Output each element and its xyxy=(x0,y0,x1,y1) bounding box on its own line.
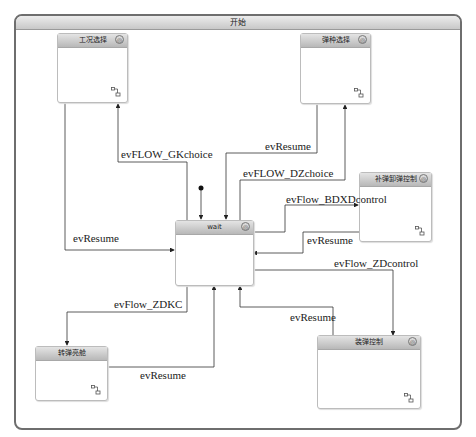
state-title: 工况选择 xyxy=(79,36,107,44)
submachine-icon xyxy=(354,88,364,98)
transition-label-zd-resume[interactable]: evResume xyxy=(290,311,336,323)
state-bdxd-control[interactable]: 补弹卸弹控制◎ xyxy=(359,172,432,242)
state-title: 弹种选择 xyxy=(322,36,350,44)
transition-label-zdkc[interactable]: evFlow_ZDKC xyxy=(114,298,182,310)
state-title: wait xyxy=(207,223,222,231)
transition-label-zdkc-resume[interactable]: evResume xyxy=(140,369,186,381)
transition-label-dz-choice[interactable]: evFLOW_DZchoice xyxy=(243,167,333,179)
state-zd-control[interactable]: 装弹控制◎ xyxy=(317,335,421,409)
state-title: 装弹控制 xyxy=(355,338,383,346)
gear-icon: ◎ xyxy=(408,337,417,346)
transition-label-zd-control[interactable]: evFlow_ZDcontrol xyxy=(334,257,418,269)
initial-state-dot xyxy=(199,186,204,191)
gear-icon: ◎ xyxy=(241,222,250,231)
gear-icon: ◎ xyxy=(115,35,124,44)
transition-label-gk-resume[interactable]: evResume xyxy=(73,232,119,244)
submachine-icon xyxy=(404,393,414,403)
transition-label-dz-resume[interactable]: evResume xyxy=(265,140,311,152)
submachine-icon xyxy=(111,87,121,97)
gear-icon: ◎ xyxy=(419,174,428,183)
state-title: 转弹亮舱 xyxy=(58,349,86,357)
transition-label-gk-choice[interactable]: evFLOW_GKchoice xyxy=(121,148,213,160)
state-zdkc[interactable]: 转弹亮舱 xyxy=(35,346,108,401)
state-wait[interactable]: wait◎ xyxy=(175,220,254,286)
transition-label-bdxd-resume[interactable]: evResume xyxy=(307,234,353,246)
gear-icon: ◎ xyxy=(358,35,367,44)
transition-label-bdxd-control[interactable]: evFlow_BDXDcontrol xyxy=(286,193,387,205)
state-gk-select[interactable]: 工况选择◎ xyxy=(57,33,128,103)
submachine-icon xyxy=(91,385,101,395)
submachine-icon xyxy=(415,226,425,236)
state-title: 补弹卸弹控制 xyxy=(375,175,417,183)
state-dz-select[interactable]: 弹种选择◎ xyxy=(300,33,371,104)
